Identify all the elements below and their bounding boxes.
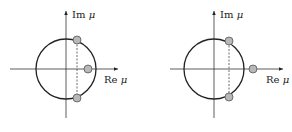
- imag-axis-label: Im μ: [220, 9, 243, 20]
- multiplier-point-lower: [73, 94, 81, 102]
- multiplier-point-upper: [73, 36, 81, 44]
- real-axis-label: Re μ: [104, 74, 127, 85]
- panel-left: Im μ Re μ: [10, 9, 127, 118]
- multiplier-point-lower: [225, 93, 233, 101]
- multiplier-point-real: [84, 65, 92, 73]
- diagram-canvas: Im μ Re μ Im μ Re μ: [0, 0, 292, 132]
- real-axis-label: Re μ: [266, 74, 289, 85]
- imag-axis-label: Im μ: [72, 9, 95, 20]
- multiplier-point-real: [249, 65, 257, 73]
- panel-right: Im μ Re μ: [170, 9, 289, 118]
- multiplier-point-upper: [225, 37, 233, 45]
